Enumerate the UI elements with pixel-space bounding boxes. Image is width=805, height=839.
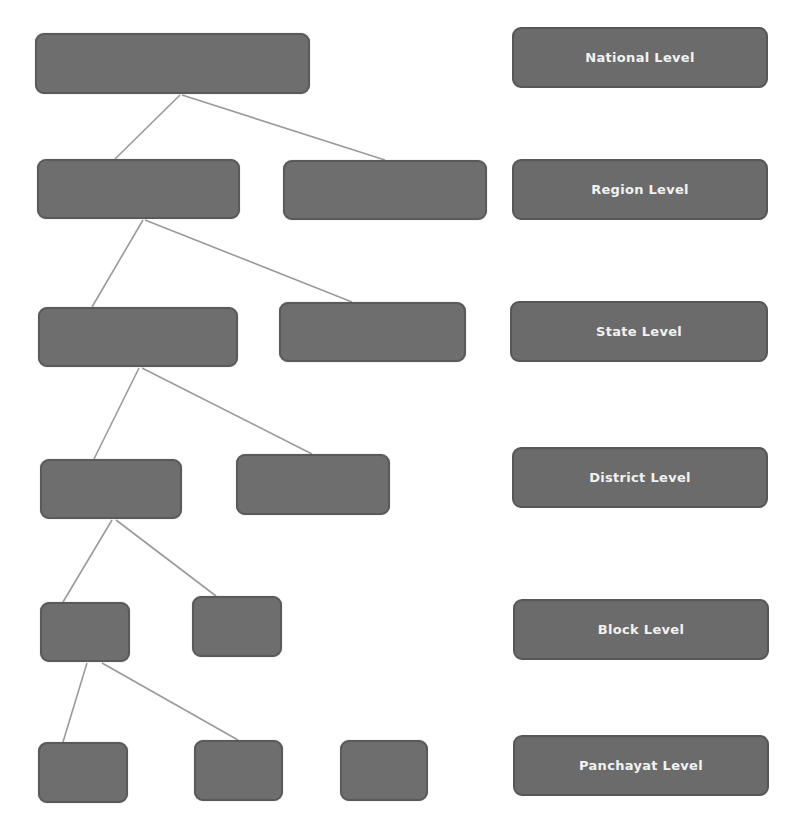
- level-label-text: District Level: [589, 470, 691, 485]
- level-label-text: National Level: [585, 50, 694, 65]
- level-label-region: Region Level: [512, 159, 768, 220]
- node-state-2: [279, 302, 466, 362]
- level-label-text: Block Level: [598, 622, 684, 637]
- node-block-1: [40, 602, 130, 662]
- level-label-block: Block Level: [513, 599, 769, 660]
- connector-district-1-block-2: [116, 520, 216, 596]
- node-panchayat-3: [340, 740, 428, 801]
- connector-region-1-state-2: [145, 220, 352, 302]
- connector-block-1-panchayat-1: [63, 663, 87, 742]
- connector-state-1-district-2: [142, 368, 312, 454]
- connector-lines: [0, 0, 805, 839]
- connector-region-1-state-1: [92, 220, 143, 307]
- level-label-district: District Level: [512, 447, 768, 508]
- connector-national-region-1: [115, 95, 180, 159]
- connector-state-1-district-1: [94, 368, 139, 459]
- level-label-panchayat: Panchayat Level: [513, 735, 769, 796]
- connector-national-region-2: [182, 95, 385, 160]
- level-label-text: State Level: [596, 324, 682, 339]
- level-label-text: Panchayat Level: [579, 758, 703, 773]
- connector-block-1-panchayat-2: [102, 663, 238, 740]
- node-panchayat-2: [194, 740, 283, 801]
- node-state-1: [38, 307, 238, 367]
- node-district-1: [40, 459, 182, 519]
- node-region-1: [37, 159, 240, 219]
- node-national: [35, 33, 310, 94]
- level-label-text: Region Level: [591, 182, 689, 197]
- level-label-national: National Level: [512, 27, 768, 88]
- node-district-2: [236, 454, 390, 515]
- level-label-state: State Level: [510, 301, 768, 362]
- node-region-2: [283, 160, 487, 220]
- node-block-2: [192, 596, 282, 657]
- node-panchayat-1: [38, 742, 128, 803]
- connector-district-1-block-1: [63, 520, 112, 602]
